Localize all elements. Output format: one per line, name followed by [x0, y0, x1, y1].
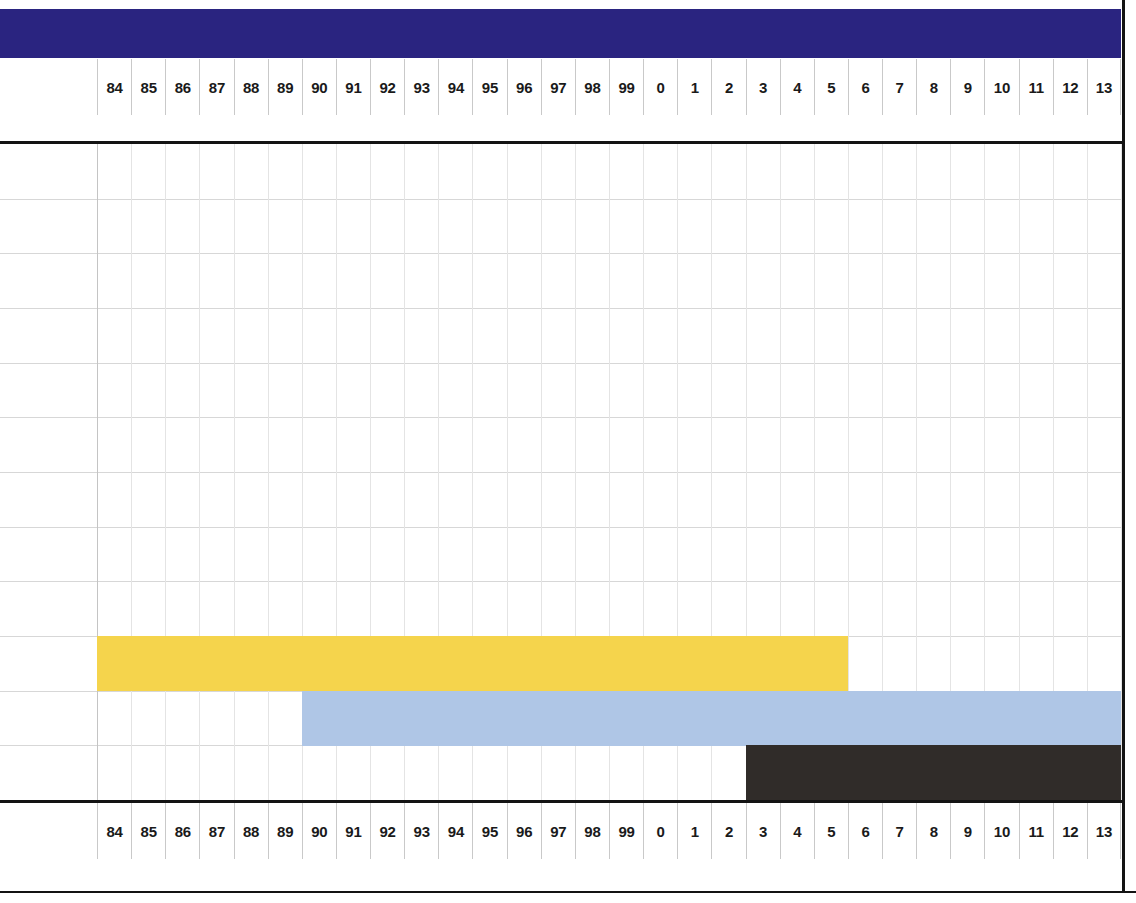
axis-tick-label: 84: [97, 803, 131, 859]
axis-tick-label: 2: [711, 803, 745, 859]
grid-column-line: [165, 144, 166, 800]
axis-tick-label: 91: [336, 59, 370, 115]
axis-tick-label: 2: [711, 59, 745, 115]
axis-tick-label: 9: [950, 59, 984, 115]
grid-column-line: [199, 144, 200, 800]
axis-tick-label: 97: [541, 59, 575, 115]
grid-column-line: [131, 144, 132, 800]
axis-tick-label: 89: [268, 803, 302, 859]
axis-tick-label: 5: [814, 803, 848, 859]
axis-tick-label: 90: [302, 803, 336, 859]
grid-row-line: [0, 581, 1122, 582]
axis-tick-label: 89: [268, 59, 302, 115]
axis-tick-label: 87: [199, 803, 233, 859]
axis-tick-label: 3: [746, 803, 780, 859]
axis-tick-label: 4: [780, 59, 814, 115]
axis-tick-label: 96: [507, 803, 541, 859]
axis-tick-label: 93: [404, 59, 438, 115]
grid-row-line: [0, 472, 1122, 473]
grid-column-line: [234, 144, 235, 800]
axis-tick-label: 94: [438, 803, 472, 859]
axis-tick-label: 6: [848, 803, 882, 859]
axis-tick-label: 85: [131, 59, 165, 115]
header-band: [0, 9, 1121, 58]
axis-tick-label: 13: [1087, 803, 1121, 859]
axis-tick-label: 11: [1019, 59, 1053, 115]
axis-tick-label: 4: [780, 803, 814, 859]
axis-tick-label: 7: [882, 803, 916, 859]
grid-row-line: [0, 253, 1122, 254]
gantt-bar[interactable]: [97, 636, 848, 691]
axis-tick-label: 86: [165, 59, 199, 115]
axis-tick-label: 0: [643, 59, 677, 115]
axis-tick-label: 1: [677, 803, 711, 859]
axis-tick-label: 95: [472, 803, 506, 859]
axis-tick-label: 85: [131, 803, 165, 859]
gantt-bar[interactable]: [302, 691, 1121, 746]
axis-tick-label: 8: [916, 803, 950, 859]
axis-tick-label: 99: [609, 803, 643, 859]
axis-tick-label: 98: [575, 59, 609, 115]
grid-column-line: [97, 144, 98, 800]
axis-tick-label: 93: [404, 803, 438, 859]
axis-tick-label: 92: [370, 803, 404, 859]
axis-tick-label: 0: [643, 803, 677, 859]
axis-tick-label: 94: [438, 59, 472, 115]
axis-tick-label: 5: [814, 59, 848, 115]
axis-tick-label: 10: [984, 803, 1018, 859]
axis-tick-label: 12: [1053, 803, 1087, 859]
axis-tick-label: 88: [234, 803, 268, 859]
plot-area: [0, 144, 1122, 800]
grid-row-line: [0, 308, 1122, 309]
axis-tick-label: 91: [336, 803, 370, 859]
axis-tick-label: 9: [950, 803, 984, 859]
axis-tick-label: 86: [165, 803, 199, 859]
axis-tick-label: 7: [882, 59, 916, 115]
axis-tick-label: 90: [302, 59, 336, 115]
axis-tick-label: 13: [1087, 59, 1121, 115]
axis-tick-label: 96: [507, 59, 541, 115]
axis-tick-label: 87: [199, 59, 233, 115]
grid-row-line: [0, 363, 1122, 364]
axis-tick-label: 11: [1019, 803, 1053, 859]
gantt-bar[interactable]: [746, 745, 1121, 800]
axis-tick-label: 98: [575, 803, 609, 859]
axis-tick-label: 84: [97, 59, 131, 115]
axis-tick-label: 10: [984, 59, 1018, 115]
axis-tick-label: 6: [848, 59, 882, 115]
axis-tick-label: 99: [609, 59, 643, 115]
footer-rule: [0, 891, 1136, 893]
grid-row-line: [0, 527, 1122, 528]
axis-tick-label: 95: [472, 59, 506, 115]
axis-tick-label: 12: [1053, 59, 1087, 115]
grid-row-line: [0, 417, 1122, 418]
grid-row-line: [0, 199, 1122, 200]
chart-page: 8485868788899091929394959697989901234567…: [0, 0, 1136, 903]
axis-tick-label: 8: [916, 59, 950, 115]
axis-tick-label: 1: [677, 59, 711, 115]
axis-tick-label: 97: [541, 803, 575, 859]
axis-tick-label: 88: [234, 59, 268, 115]
right-frame-border: [1122, 0, 1125, 891]
grid-column-line: [268, 144, 269, 800]
axis-tick-label: 3: [746, 59, 780, 115]
axis-tick-label: 92: [370, 59, 404, 115]
